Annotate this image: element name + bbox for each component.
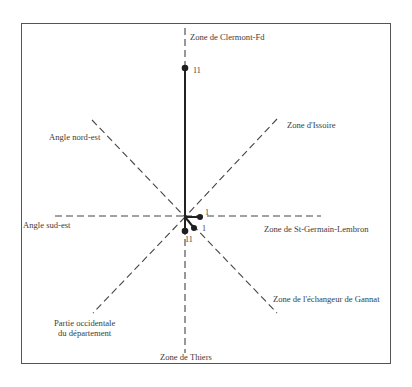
value-label-s: 11 — [185, 235, 193, 244]
value-dot-se — [191, 225, 197, 231]
axis-ne — [185, 119, 277, 217]
value-dot-e — [197, 214, 203, 220]
label-axis-w: Angle sud-est — [23, 220, 71, 230]
label-axis-ne: Zone d'Issoire — [287, 120, 336, 130]
axis-sw — [93, 217, 185, 313]
label-axis-s: Zone de Thiers — [160, 352, 212, 362]
label-axis-n: Zone de Clermont-Fd — [190, 32, 264, 42]
label-axis-sw-line1: Partie occidentale — [54, 318, 115, 328]
label-axis-e: Zone de St-Germain-Lembron — [264, 224, 369, 234]
label-axis-sw-line2: du département — [54, 328, 115, 338]
value-dot-n — [182, 65, 189, 72]
value-label-n: 11 — [193, 66, 201, 75]
label-axis-sw: Partie occidentale du département — [54, 318, 115, 338]
value-label-se: 1 — [202, 224, 206, 233]
value-label-e: 1 — [205, 208, 209, 217]
axis-nw — [92, 120, 185, 217]
value-dot-s — [182, 228, 189, 235]
label-axis-se: Zone de l'échangeur de Gannat — [273, 294, 380, 304]
label-axis-nw: Angle nord-est — [49, 132, 100, 142]
